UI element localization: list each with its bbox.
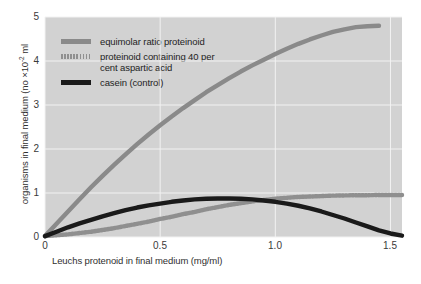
chart-canvas xyxy=(0,0,421,284)
series-line-0 xyxy=(45,26,379,236)
data-series-layer xyxy=(45,26,402,236)
chart-figure: 5 4 3 2 1 0 0 0.5 1.0 1.5 organisms in f… xyxy=(0,0,421,284)
